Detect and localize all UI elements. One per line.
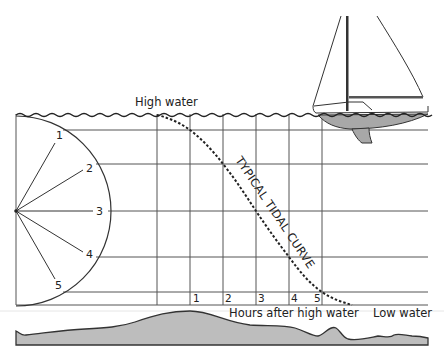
tidal-curve-label: TYPICAL TIDAL CURVE — [232, 153, 318, 271]
hour-tick-2: 2 — [225, 292, 232, 304]
tidal-curve — [157, 115, 352, 305]
hour-tick-4: 4 — [291, 292, 298, 304]
high-water-label: High water — [135, 95, 198, 109]
semicircle-radials — [16, 143, 93, 279]
hour-tick-1: 1 — [193, 292, 200, 304]
semicircle-mark-3: 3 — [96, 205, 103, 218]
hour-tick-3: 3 — [258, 292, 265, 304]
seabed-profile — [16, 311, 428, 345]
semicircle-mark-4: 4 — [86, 248, 93, 261]
hours-axis-label: Hours after high water — [229, 306, 359, 320]
semicircle-mark-1: 1 — [56, 129, 63, 142]
semicircle-mark-2: 2 — [86, 162, 93, 175]
semicircle-mark-5: 5 — [55, 279, 62, 292]
tidal-diagram: 1 2 3 4 5 1 2 3 4 5 TYPICAL TIDAL CURVE — [0, 0, 444, 364]
hour-tick-5: 5 — [314, 292, 321, 304]
semicircle-center-dot — [14, 209, 18, 213]
low-water-label: Low water — [373, 306, 432, 320]
sailboat-icon — [313, 16, 428, 143]
